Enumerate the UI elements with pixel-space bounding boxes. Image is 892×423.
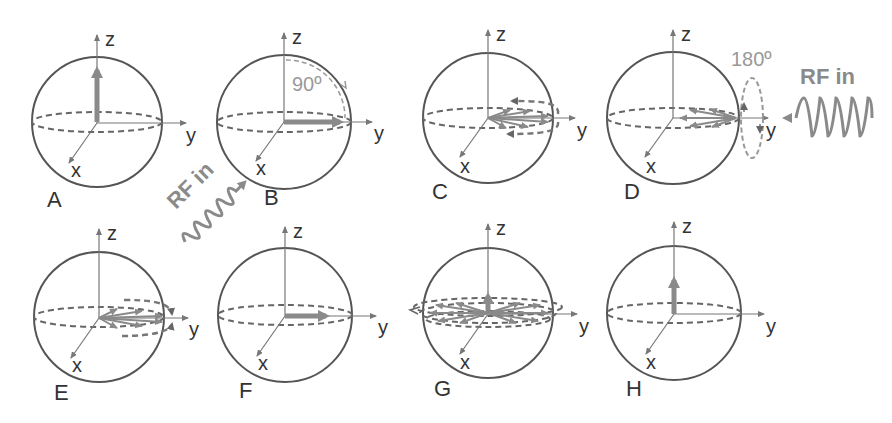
rf-wave-icon — [782, 98, 872, 136]
y-label: y — [378, 316, 388, 338]
x-label: x — [256, 157, 266, 179]
panel-g: z y x G — [410, 217, 589, 401]
x-label: x — [71, 159, 81, 181]
x-axis — [645, 118, 673, 157]
x-axis — [71, 318, 99, 358]
z-label: z — [105, 28, 115, 50]
x-label: x — [72, 354, 82, 376]
z-label: z — [496, 23, 506, 45]
x-label: x — [460, 351, 470, 373]
x-axis — [460, 118, 488, 157]
z-label: z — [107, 222, 117, 244]
panel-h: z y x H — [607, 215, 776, 401]
flip-angle-label: 90º — [292, 73, 322, 95]
panel-a: z y x A — [32, 28, 196, 212]
y-label: y — [374, 122, 384, 144]
rf-label: RF in — [162, 157, 219, 214]
y-label: y — [766, 315, 776, 337]
rotation-arrow-bottom — [122, 324, 172, 336]
rf-label: RF in — [800, 64, 855, 89]
z-label: z — [682, 215, 692, 237]
z-label: z — [292, 26, 302, 48]
x-label: x — [258, 352, 268, 374]
z-label: z — [681, 23, 691, 45]
panel-d: 180º z y x D — [607, 23, 776, 204]
panel-label: H — [626, 376, 642, 401]
panel-label: F — [239, 378, 252, 403]
z-label: z — [293, 220, 303, 242]
panel-label: E — [54, 380, 69, 405]
x-label: x — [646, 155, 656, 177]
x-axis — [460, 314, 488, 354]
x-axis — [69, 123, 97, 163]
x-label: x — [460, 155, 470, 177]
y-label: y — [577, 119, 587, 141]
z-label: z — [496, 217, 506, 239]
x-axis — [257, 316, 285, 356]
panel-e: z y x E — [34, 222, 199, 405]
panel-label: C — [432, 179, 448, 204]
y-label: y — [186, 124, 196, 146]
panel-label: A — [47, 187, 62, 212]
panel-label: G — [434, 376, 451, 401]
x-axis — [646, 314, 674, 354]
panel-label: D — [624, 179, 640, 204]
y-label: y — [766, 119, 776, 141]
rf-pulse-2: RF in — [782, 64, 872, 136]
panel-f: z y x F — [218, 220, 388, 403]
y-label: y — [579, 315, 589, 337]
panel-c: z y x C — [423, 23, 587, 204]
x-axis — [256, 122, 284, 161]
panel-label: B — [264, 185, 279, 210]
y-label: y — [189, 318, 199, 340]
x-label: x — [646, 351, 656, 373]
flip-angle-label: 180º — [731, 48, 772, 70]
bloch-sphere-diagram: z y x A 90º z y x B RF in — [0, 0, 892, 423]
